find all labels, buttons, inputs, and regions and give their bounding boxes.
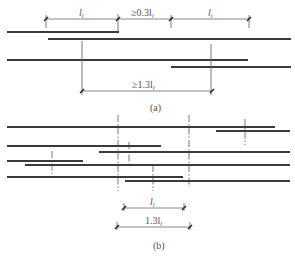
dim-label-ll-left: ll	[79, 7, 84, 19]
caption-a: (a)	[150, 102, 161, 114]
dim-label-1-3ll: ≥1.3ll	[132, 79, 155, 91]
dim-label-gap: ≥0.3ll	[131, 7, 154, 19]
dim-label-1-3ll-b: 1.3ll	[145, 215, 162, 227]
dim-label-ll-right: ll	[208, 7, 213, 19]
caption-b: (b)	[153, 240, 165, 252]
part-b: ll 1.3ll (b)	[7, 115, 290, 252]
dim-label-ll: ll	[150, 196, 155, 208]
part-a: ll ≥0.3ll ll ≥1.3ll (a)	[7, 7, 291, 114]
lap-splice-diagram: ll ≥0.3ll ll ≥1.3ll (a)	[0, 0, 295, 259]
